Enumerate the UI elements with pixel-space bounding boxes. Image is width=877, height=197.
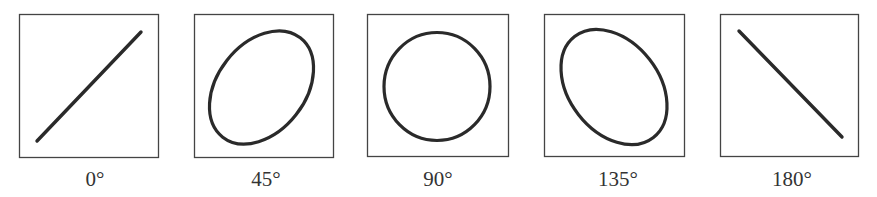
phase-label: 180° <box>772 167 812 191</box>
panel-0-degrees: 0° <box>20 15 159 192</box>
phase-label: 0° <box>86 167 105 191</box>
lissajous-ellipse-tilted-left <box>539 9 689 165</box>
lissajous-diagram: 0° 45° 90° 135° 180° <box>0 0 877 197</box>
lissajous-line-falling <box>739 31 842 137</box>
panel-frame <box>368 15 509 157</box>
phase-label: 45° <box>251 167 280 191</box>
phase-label: 135° <box>598 167 638 191</box>
lissajous-circle <box>384 33 490 141</box>
lissajous-ellipse-tilted-right <box>188 11 335 164</box>
panel-135-degrees: 135° <box>539 9 689 191</box>
panel-180-degrees: 180° <box>721 15 859 192</box>
phase-label: 90° <box>423 167 452 191</box>
lissajous-line-rising <box>37 32 141 141</box>
panel-45-degrees: 45° <box>188 11 335 191</box>
panel-90-degrees: 90° <box>368 15 509 192</box>
panel-frame <box>721 15 859 157</box>
